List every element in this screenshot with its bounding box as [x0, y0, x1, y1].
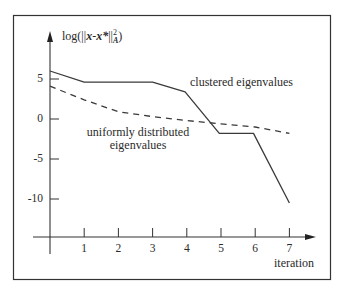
x-tick-label: 7 [282, 243, 296, 255]
annotation-uniform: uniformly distributed eigenvalues [74, 126, 202, 152]
x-tick-label: 3 [146, 243, 160, 255]
annotation-clustered: clustered eigenvalues [190, 76, 293, 89]
annotation-uniform-line2: eigenvalues [74, 139, 202, 152]
y-tick-label: 5 [23, 73, 43, 85]
x-tick-label: 4 [180, 243, 194, 255]
y-axis-label: log(||x-x*||2A) [62, 29, 122, 45]
x-tick-label: 5 [214, 243, 228, 255]
x-tick-label: 2 [111, 243, 125, 255]
x-tick-label: 1 [77, 243, 91, 255]
y-tick-label: 0 [23, 113, 43, 125]
y-tick-label: -10 [23, 193, 43, 205]
y-axis-arrow-icon [47, 31, 53, 42]
y-tick-label: -5 [23, 153, 43, 165]
x-axis-label: iteration [274, 257, 314, 269]
x-tick-label: 6 [248, 243, 262, 255]
chart-figure: log(||x-x*||2A) 50-5-10 1234567 iteratio… [0, 0, 342, 293]
x-axis-arrow-icon [305, 234, 316, 240]
